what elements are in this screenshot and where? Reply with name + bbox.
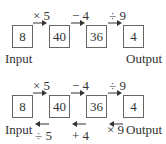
value-box-3: 36 [86, 95, 107, 118]
right-arrow-icon [33, 90, 47, 96]
right-arrow-icon [108, 90, 122, 96]
value-box-output: 4 [123, 25, 144, 48]
value-box-3: 36 [86, 25, 107, 48]
left-arrow-icon [72, 121, 86, 127]
reverse-op-3: × 9 [107, 123, 124, 136]
output-label: Output [126, 123, 162, 136]
value-box-input: 8 [12, 95, 33, 118]
value-box-input: 8 [12, 25, 33, 48]
right-arrow-icon [71, 90, 85, 96]
right-arrow-icon [71, 20, 85, 26]
reverse-op-2: + 4 [72, 129, 89, 142]
value-box-2: 40 [49, 25, 70, 48]
value-box-output: 4 [123, 95, 144, 118]
right-arrow-icon [108, 20, 122, 26]
input-label: Input [5, 123, 32, 136]
input-label: Input [5, 52, 32, 65]
value-box-2: 40 [49, 95, 70, 118]
output-label: Output [126, 52, 162, 65]
reverse-op-1: ÷ 5 [35, 129, 52, 142]
left-arrow-icon [35, 121, 49, 127]
right-arrow-icon [33, 20, 47, 26]
